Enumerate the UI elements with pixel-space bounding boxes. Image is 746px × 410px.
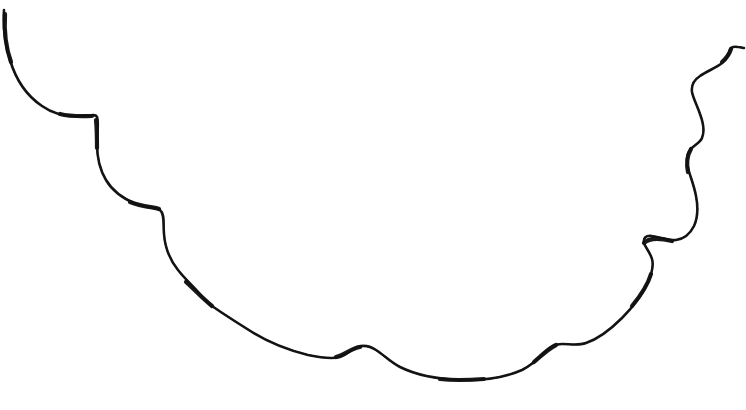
drawing-canvas: [0, 0, 746, 410]
emphasis-segment: [60, 114, 92, 116]
emphasis-segment: [96, 120, 97, 148]
freehand-drawing-svg: [0, 0, 746, 410]
emphasis-segment: [440, 379, 484, 380]
